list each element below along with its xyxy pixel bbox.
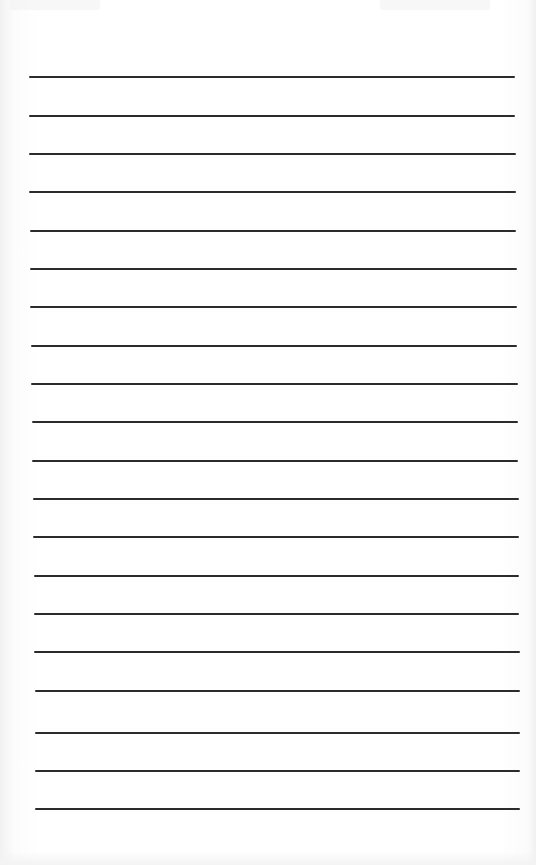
ruled-line	[35, 690, 520, 692]
ruled-line	[30, 306, 517, 308]
ruled-line	[32, 460, 518, 462]
ruled-line	[34, 575, 519, 577]
lined-paper-page	[0, 0, 536, 865]
ruled-line	[31, 345, 517, 347]
ruled-line	[29, 76, 515, 78]
ruled-line	[31, 383, 518, 385]
ruled-line	[29, 191, 516, 193]
ruled-line	[29, 115, 515, 117]
ruled-line	[35, 732, 520, 734]
ruled-line	[33, 498, 519, 500]
show-through-text-left	[10, 0, 100, 10]
ruled-line	[34, 651, 520, 653]
ruled-line	[30, 268, 517, 270]
ruled-line	[35, 770, 520, 772]
page-bottom-edge	[0, 851, 536, 865]
ruled-line	[34, 613, 519, 615]
ruled-line	[30, 230, 516, 232]
ruled-line	[33, 536, 519, 538]
ruled-line	[32, 421, 518, 423]
show-through-text-right	[380, 0, 490, 10]
ruled-line	[35, 808, 520, 810]
ruled-line	[29, 153, 516, 155]
